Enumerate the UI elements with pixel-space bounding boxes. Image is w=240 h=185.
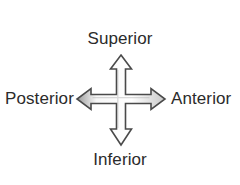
anatomical-direction-diagram: Superior Posterior Anterior Inferior (0, 0, 240, 185)
label-anterior: Anterior (171, 89, 231, 109)
label-inferior: Inferior (0, 150, 240, 170)
arrow-outline-path (77, 55, 165, 145)
label-superior: Superior (0, 29, 240, 49)
label-posterior: Posterior (5, 89, 74, 109)
arrow-body (77, 55, 165, 145)
